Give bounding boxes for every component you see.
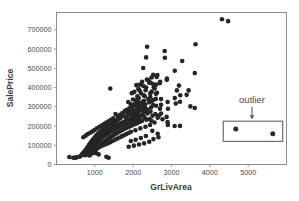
data-point <box>130 91 135 96</box>
data-point <box>175 88 180 93</box>
data-point <box>145 45 150 50</box>
data-point <box>226 19 231 24</box>
data-point <box>193 71 198 76</box>
data-point <box>177 83 182 88</box>
data-point <box>162 49 167 54</box>
y-tick-label: 0 <box>48 160 52 169</box>
data-point <box>164 78 169 83</box>
data-point <box>180 59 185 64</box>
data-point <box>137 142 142 147</box>
data-point <box>188 104 193 109</box>
data-point <box>141 66 146 71</box>
data-point <box>150 99 155 104</box>
data-point <box>144 55 149 60</box>
data-point <box>165 120 170 125</box>
data-point <box>141 107 146 112</box>
data-point <box>144 117 149 122</box>
data-point <box>149 118 154 123</box>
data-point <box>159 97 164 102</box>
data-point <box>193 42 198 47</box>
data-point <box>133 138 138 143</box>
data-point <box>138 126 143 131</box>
y-tick-label: 200000 <box>28 122 52 131</box>
data-point <box>178 93 183 98</box>
data-point <box>132 143 137 148</box>
data-point <box>81 135 86 140</box>
data-point <box>132 108 137 113</box>
data-point <box>173 101 178 106</box>
data-point <box>220 17 225 22</box>
data-point <box>145 109 150 114</box>
data-point <box>148 123 153 128</box>
data-point <box>178 124 183 129</box>
data-point <box>159 111 164 116</box>
data-point <box>139 136 144 141</box>
y-axis-title: SalePrice <box>5 68 15 107</box>
y-tick-label: 600000 <box>28 45 52 54</box>
data-point <box>163 55 168 60</box>
plot-svg: 0100000200000300000400000500000600000700… <box>0 0 299 201</box>
data-point <box>67 155 72 160</box>
y-tick-label: 400000 <box>28 83 52 92</box>
data-point <box>164 115 169 120</box>
data-point <box>129 139 134 144</box>
data-point <box>160 117 165 122</box>
data-point <box>159 103 164 108</box>
data-point <box>139 91 144 96</box>
data-point <box>150 129 155 134</box>
y-tick-label: 700000 <box>28 25 52 34</box>
data-point <box>129 129 134 134</box>
data-point <box>80 151 85 156</box>
data-point <box>147 80 152 85</box>
data-point <box>154 92 159 97</box>
data-point <box>165 100 170 105</box>
data-point <box>136 100 141 105</box>
data-point <box>147 140 152 145</box>
y-tick-label: 300000 <box>28 102 52 111</box>
data-point <box>138 82 143 87</box>
data-point <box>142 141 147 146</box>
x-axis-title: GrLivArea <box>150 182 192 192</box>
data-point <box>178 99 183 104</box>
data-point <box>113 112 118 117</box>
data-point <box>154 75 159 80</box>
data-point <box>186 88 191 93</box>
y-tick-label: 100000 <box>28 141 52 150</box>
data-point <box>166 106 171 111</box>
data-point <box>143 124 148 129</box>
x-tick-label: 4000 <box>202 168 218 177</box>
data-point <box>154 104 159 109</box>
x-tick-label: 5000 <box>240 168 256 177</box>
data-point <box>126 145 131 150</box>
data-point <box>144 134 149 139</box>
y-tick-label: 500000 <box>28 64 52 73</box>
outlier-annotation-label: outlier <box>239 94 265 105</box>
data-point <box>142 94 147 99</box>
outlier-point <box>233 126 238 131</box>
data-point <box>184 93 189 98</box>
x-tick-label: 3000 <box>164 168 180 177</box>
x-tick-label: 1000 <box>87 168 103 177</box>
data-point <box>151 137 156 142</box>
data-point <box>156 135 161 140</box>
data-point <box>158 79 163 84</box>
data-point <box>173 69 178 74</box>
x-tick-label: 2000 <box>125 168 141 177</box>
scatter-plot-figure: 0100000200000300000400000500000600000700… <box>0 0 299 201</box>
data-point <box>108 86 113 91</box>
data-point <box>71 155 76 160</box>
data-point <box>104 155 109 160</box>
outlier-point <box>270 131 275 136</box>
data-point <box>133 128 138 133</box>
data-point <box>172 124 177 129</box>
data-point <box>155 115 160 120</box>
data-point <box>158 106 163 111</box>
data-point <box>152 86 157 91</box>
data-point <box>173 96 178 101</box>
data-point <box>193 106 198 111</box>
data-point <box>149 105 154 110</box>
